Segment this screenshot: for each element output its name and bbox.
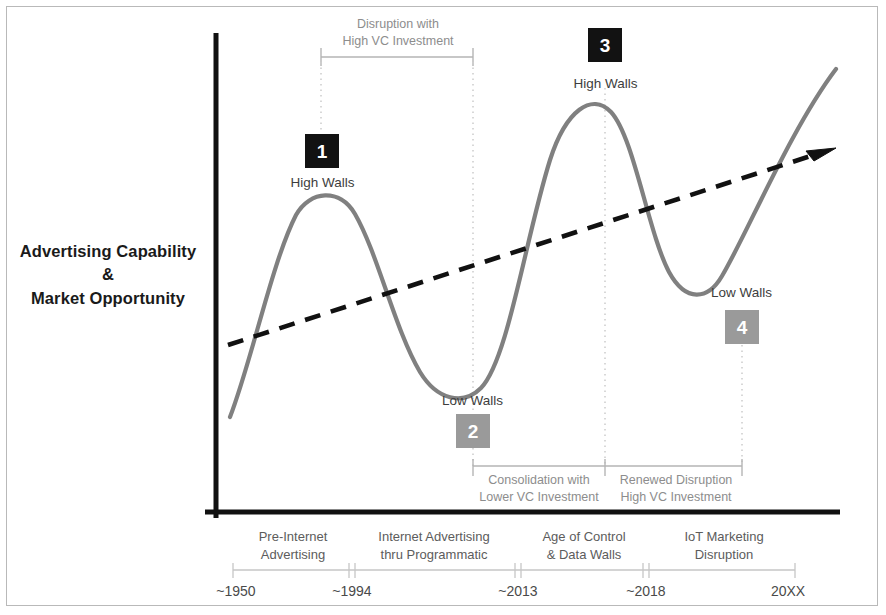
trend-arrow-head (806, 148, 836, 161)
marker-box-2[interactable]: 2 (456, 414, 490, 448)
marker-number-3: 3 (600, 36, 611, 55)
bracket-label-br-line-1: Renewed Disruption (606, 472, 746, 489)
bracket-label-br-line-2: High VC Investment (606, 489, 746, 506)
era-3-line-1: IoT Marketing (661, 528, 787, 546)
capability-wave-curve (230, 69, 836, 417)
bracket-label-top-line-1: Disruption with (312, 16, 484, 33)
bracket-label-consolidation-lower-vc: Consolidation with Lower VC Investment (466, 472, 612, 506)
marker-box-1[interactable]: 1 (305, 134, 339, 168)
timeline-rule (233, 563, 795, 578)
era-1-line-2: thru Programmatic (359, 546, 509, 564)
top-bracket (321, 48, 473, 66)
y-axis-title-line-1: Advertising Capability (12, 240, 204, 263)
bracket-label-top-line-2: High VC Investment (312, 33, 484, 50)
y-axis-title-line-2: & (12, 263, 204, 286)
wall-label-3: High Walls (558, 76, 653, 91)
year-label-2013: ~2013 (480, 583, 556, 599)
wall-label-2: Low Walls (425, 393, 520, 408)
y-axis-title-line-3: Market Opportunity (12, 287, 204, 310)
marker-box-4[interactable]: 4 (725, 310, 759, 344)
era-2-line-1: Age of Control (521, 528, 647, 546)
bracket-label-bl-line-1: Consolidation with (466, 472, 612, 489)
era-0-line-1: Pre-Internet (233, 528, 353, 546)
bracket-label-disruption-high-vc: Disruption with High VC Investment (312, 16, 484, 50)
marker-number-1: 1 (317, 142, 328, 161)
year-label-2018: ~2018 (608, 583, 684, 599)
era-label-age-of-control-data-walls: Age of Control & Data Walls (521, 528, 647, 564)
y-axis-title: Advertising Capability & Market Opportun… (12, 240, 204, 310)
bracket-label-renewed-disruption-high-vc: Renewed Disruption High VC Investment (606, 472, 746, 506)
year-label-20xx: 20XX (750, 583, 826, 599)
marker-box-3[interactable]: 3 (588, 28, 622, 62)
era-2-line-2: & Data Walls (521, 546, 647, 564)
year-label-1950: ~1950 (198, 583, 274, 599)
era-label-iot-marketing-disruption: IoT Marketing Disruption (661, 528, 787, 564)
era-3-line-2: Disruption (661, 546, 787, 564)
era-0-line-2: Advertising (233, 546, 353, 564)
year-label-1994: ~1994 (314, 583, 390, 599)
era-label-internet-advertising-programmatic: Internet Advertising thru Programmatic (359, 528, 509, 564)
era-label-pre-internet-advertising: Pre-Internet Advertising (233, 528, 353, 564)
wall-label-1: High Walls (275, 175, 370, 190)
bracket-label-bl-line-2: Lower VC Investment (466, 489, 612, 506)
marker-number-4: 4 (737, 318, 748, 337)
marker-number-2: 2 (468, 422, 479, 441)
era-1-line-1: Internet Advertising (359, 528, 509, 546)
wall-label-4: Low Walls (694, 285, 789, 300)
chart-page: Advertising Capability & Market Opportun… (0, 0, 886, 615)
